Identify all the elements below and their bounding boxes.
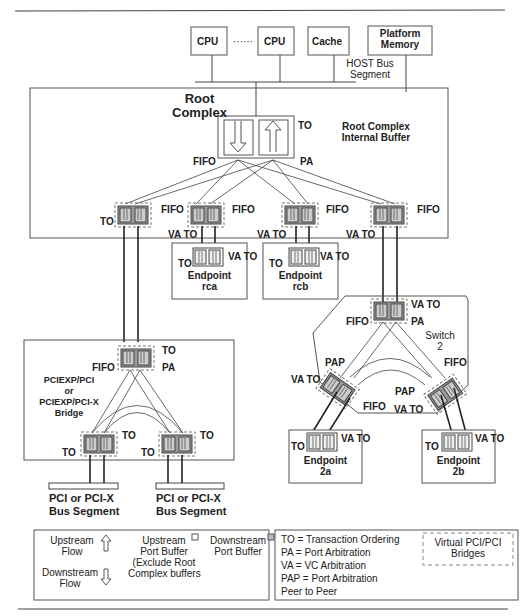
switch-right-fifo: FIFO — [444, 357, 467, 368]
port-4-fifo: FIFO — [417, 204, 440, 215]
legend-abbreviations: TO = Transaction OrderingPA = Port Arbit… — [281, 533, 399, 598]
cpu-1-label: CPU — [197, 36, 218, 47]
ep2a-to: TO — [291, 441, 305, 452]
rcb-to: TO — [269, 258, 283, 269]
rc-fifo-label: FIFO — [193, 156, 216, 167]
root-complex-title: RootComplex — [172, 92, 227, 120]
rc-pa-label: PA — [300, 156, 313, 167]
switch-right-pap: PAP — [395, 386, 415, 397]
port-3-fifo: FIFO — [326, 204, 349, 215]
bridge-top-fifo: FIFO — [92, 362, 115, 373]
bridge-port-2-to-left: TO — [141, 447, 155, 458]
endpoint-rcb-label: Endpointrcb — [263, 270, 338, 292]
switch-title: Switch2 — [425, 330, 455, 352]
legend-upstream-flow: UpstreamFlow — [44, 535, 100, 557]
host-bus-label: HOST BusSegment — [340, 58, 400, 80]
legend-upstream-port-buffer: UpstreamPort Buffer(Exclude RootComplex … — [128, 535, 200, 579]
port-2-fifo: FIFO — [232, 204, 255, 215]
switch-left-pap: PAP — [325, 357, 345, 368]
port-2-vato: VA TO — [168, 229, 197, 240]
rcb-vato: VA TO — [320, 251, 349, 262]
cpu-dots: ······ — [233, 36, 253, 47]
legend-downstream-port-buffer: DownstreamPort Buffer — [208, 535, 268, 557]
switch-top-fifo: FIFO — [346, 316, 369, 327]
switch-right-vato: VA TO — [394, 404, 423, 415]
bridge-port-1-to-left: TO — [62, 447, 76, 458]
bridge-port-1-to-right: TO — [122, 430, 136, 441]
endpoint-2a-label: Endpoint2a — [289, 455, 362, 477]
endpoint-rca-label: Endpointrca — [172, 270, 247, 292]
port-3-vato: VA TO — [257, 229, 286, 240]
bridge-top-pa: PA — [162, 362, 175, 373]
switch-left-fifo: FIFO — [363, 401, 386, 412]
legend-downstream-flow: DownstreamFlow — [38, 567, 102, 589]
rca-vato: VA TO — [228, 251, 257, 262]
cache-label: Cache — [312, 36, 342, 47]
pci-segment-2-label: PCI or PCI-XBus Segment — [156, 492, 226, 518]
endpoint-2b-label: Endpoint2b — [422, 455, 495, 477]
rca-to: TO — [178, 258, 192, 269]
bridge-port-2-to-right: TO — [200, 430, 214, 441]
cpu-2-label: CPU — [264, 36, 285, 47]
platform-memory-label: PlatformMemory — [372, 28, 428, 50]
ep2a-vato: VA TO — [341, 433, 370, 444]
port-1-fifo: FIFO — [161, 204, 184, 215]
switch-left-vato: VA TO — [291, 374, 320, 385]
port-1-to: TO — [100, 216, 114, 227]
bridge-top-to: TO — [162, 345, 176, 356]
bridge-title: PCIEXP/PCIorPCIEXP/PCI-XBridge — [34, 375, 104, 419]
switch-top-vato: VA TO — [411, 299, 440, 310]
switch-top-pa: PA — [411, 316, 424, 327]
rc-to-label: TO — [298, 120, 312, 131]
pci-segment-1-label: PCI or PCI-XBus Segment — [49, 492, 119, 518]
ep2b-vato: VA TO — [475, 433, 504, 444]
legend-virtual-bridges: Virtual PCI/PCIBridges — [423, 537, 513, 559]
ep2b-to: TO — [425, 441, 439, 452]
diagram-canvas — [0, 0, 532, 616]
port-4-vato: VA TO — [346, 229, 375, 240]
internal-buffer-label: Root ComplexInternal Buffer — [336, 121, 416, 143]
